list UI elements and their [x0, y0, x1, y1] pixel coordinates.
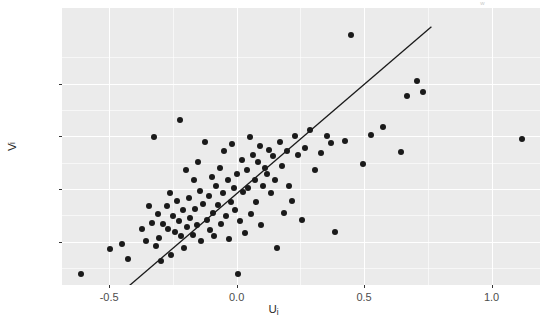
scatter-point	[250, 152, 256, 158]
scatter-point	[342, 138, 348, 144]
scatter-point	[252, 177, 258, 183]
scatter-point	[274, 245, 280, 251]
scatter-point	[183, 167, 189, 173]
scatter-point	[202, 139, 208, 145]
scatter-point	[217, 165, 223, 171]
scatter-point	[286, 183, 292, 189]
scatter-point	[272, 177, 278, 183]
scatter-point	[237, 218, 243, 224]
scatter-point	[270, 153, 276, 159]
scatter-point	[168, 252, 174, 258]
scatter-plot-figure: w -0.50.00.51.0-0.250.000.250.50 Ui Vi	[0, 0, 547, 323]
scatter-point	[125, 256, 131, 262]
scatter-point	[158, 258, 164, 264]
scatter-point	[192, 206, 198, 212]
scatter-point	[231, 185, 237, 191]
y-axis-tick-mark	[59, 242, 62, 243]
scatter-point	[146, 203, 152, 209]
scatter-point	[195, 159, 201, 165]
x-axis-tick-label: 0.5	[356, 291, 371, 303]
scatter-point	[207, 227, 213, 233]
scatter-point	[266, 147, 272, 153]
scatter-point	[328, 140, 334, 146]
scatter-point	[229, 141, 235, 147]
scatter-point	[184, 224, 190, 230]
scatter-point	[178, 233, 184, 239]
scatter-point	[420, 89, 426, 95]
scatter-point	[151, 134, 157, 140]
y-axis-title: Vi	[4, 0, 20, 293]
scatter-point	[218, 221, 224, 227]
scatter-point	[253, 199, 259, 205]
y-axis-tick-mark	[59, 189, 62, 190]
scatter-point	[107, 246, 113, 252]
scatter-point	[348, 32, 354, 38]
scatter-point	[164, 203, 170, 209]
scatter-point	[235, 271, 241, 277]
x-axis-tick-mark	[237, 285, 238, 288]
y-axis-tick-mark	[59, 84, 62, 85]
scatter-point	[414, 78, 420, 84]
scatter-point	[260, 183, 266, 189]
scatter-point	[284, 148, 290, 154]
scatter-point	[245, 185, 251, 191]
scatter-point	[143, 238, 149, 244]
scatter-point	[281, 210, 287, 216]
scatter-point	[232, 207, 238, 213]
scatter-point	[167, 190, 173, 196]
scatter-point	[398, 149, 404, 155]
scatter-point	[153, 243, 159, 249]
scatter-point	[187, 215, 193, 221]
corner-fragment-text: w	[480, 0, 485, 6]
scatter-point	[170, 213, 176, 219]
scatter-point	[519, 136, 525, 142]
scatter-point	[180, 207, 186, 213]
scatter-point	[248, 211, 254, 217]
scatter-point	[332, 229, 338, 235]
scatter-point	[139, 226, 145, 232]
scatter-point	[302, 145, 308, 151]
scatter-point	[257, 143, 263, 149]
scatter-point	[181, 245, 187, 251]
scatter-point	[279, 163, 285, 169]
scatter-point	[165, 226, 171, 232]
scatter-point	[289, 198, 295, 204]
scatter-point	[360, 161, 366, 167]
scatter-point	[277, 139, 283, 145]
scatter-points-layer	[62, 8, 540, 285]
x-axis-title: Ui	[0, 303, 547, 317]
scatter-point	[295, 152, 301, 158]
scatter-point	[78, 271, 84, 277]
scatter-point	[174, 198, 180, 204]
scatter-point	[262, 165, 268, 171]
scatter-point	[186, 195, 192, 201]
scatter-point	[177, 117, 183, 123]
scatter-point	[190, 232, 196, 238]
scatter-point	[226, 236, 232, 242]
scatter-point	[204, 217, 210, 223]
scatter-point	[299, 217, 305, 223]
scatter-point	[220, 190, 226, 196]
scatter-point	[156, 235, 162, 241]
scatter-point	[191, 177, 197, 183]
scatter-point	[255, 159, 261, 165]
scatter-point	[210, 210, 216, 216]
scatter-point	[318, 150, 324, 156]
scatter-point	[368, 132, 374, 138]
scatter-point	[324, 133, 330, 139]
scatter-point	[239, 157, 245, 163]
scatter-point	[223, 213, 229, 219]
scatter-point	[404, 93, 410, 99]
scatter-point	[198, 238, 204, 244]
scatter-point	[264, 171, 270, 177]
scatter-point	[247, 134, 253, 140]
scatter-point	[155, 211, 161, 217]
x-axis-tick-label: -0.5	[100, 291, 119, 303]
scatter-point	[307, 127, 313, 133]
scatter-point	[242, 230, 248, 236]
scatter-point	[292, 133, 298, 139]
scatter-point	[209, 174, 215, 180]
scatter-point	[228, 199, 234, 205]
scatter-point	[225, 177, 231, 183]
scatter-point	[268, 190, 274, 196]
